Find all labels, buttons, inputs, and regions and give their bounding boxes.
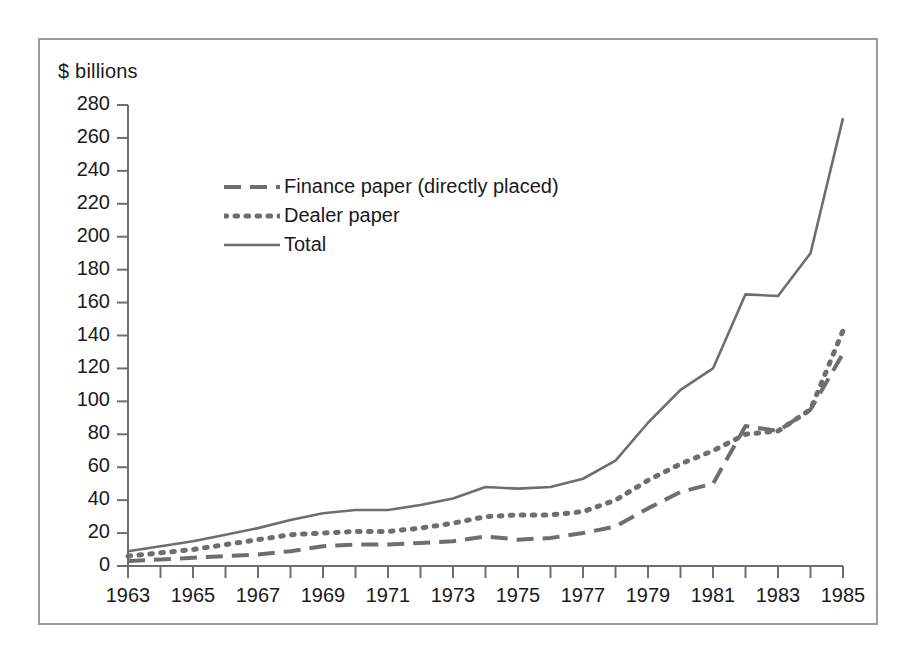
- legend-label: Finance paper (directly placed): [284, 175, 559, 198]
- y-tick-label: 140: [48, 323, 110, 346]
- legend-swatch-dotted: [224, 209, 280, 223]
- chart-plot-area: [0, 0, 915, 658]
- legend-swatch-solid: [224, 238, 280, 252]
- y-tick-label: 180: [48, 257, 110, 280]
- chart-legend: Finance paper (directly placed)Dealer pa…: [224, 172, 559, 259]
- y-tick-label: 40: [48, 487, 110, 510]
- x-tick-label: 1975: [483, 584, 553, 607]
- y-tick-label: 60: [48, 454, 110, 477]
- y-tick-label: 160: [48, 290, 110, 313]
- x-tick-label: 1973: [418, 584, 488, 607]
- x-tick-label: 1983: [743, 584, 813, 607]
- y-tick-label: 280: [48, 92, 110, 115]
- y-tick-label: 200: [48, 224, 110, 247]
- y-tick-label: 240: [48, 158, 110, 181]
- chart-figure: $ billions 02040608010012014016018020022…: [0, 0, 915, 658]
- x-tick-label: 1969: [288, 584, 358, 607]
- series-line-1: [128, 331, 843, 557]
- x-tick-label: 1965: [158, 584, 228, 607]
- series-line-0: [128, 354, 843, 561]
- y-tick-label: 0: [48, 553, 110, 576]
- legend-item: Dealer paper: [224, 201, 559, 230]
- legend-label: Dealer paper: [284, 204, 400, 227]
- x-tick-label: 1967: [223, 584, 293, 607]
- x-tick-label: 1981: [678, 584, 748, 607]
- legend-item: Finance paper (directly placed): [224, 172, 559, 201]
- x-tick-label: 1963: [93, 584, 163, 607]
- legend-swatch-dashed: [224, 180, 280, 194]
- x-tick-label: 1979: [613, 584, 683, 607]
- y-tick-label: 80: [48, 421, 110, 444]
- y-tick-label: 100: [48, 388, 110, 411]
- y-tick-label: 20: [48, 520, 110, 543]
- legend-item: Total: [224, 230, 559, 259]
- y-tick-label: 260: [48, 125, 110, 148]
- x-tick-label: 1985: [808, 584, 878, 607]
- legend-label: Total: [284, 233, 326, 256]
- x-tick-label: 1977: [548, 584, 618, 607]
- y-tick-label: 220: [48, 191, 110, 214]
- x-tick-label: 1971: [353, 584, 423, 607]
- y-tick-label: 120: [48, 355, 110, 378]
